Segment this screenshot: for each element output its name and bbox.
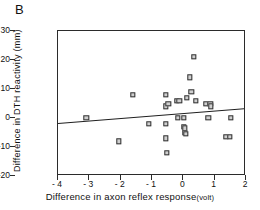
- y-axis-tick: [10, 88, 15, 89]
- x-axis-tick-label: 2: [243, 179, 248, 189]
- x-axis-tick-label: - 3: [83, 179, 93, 189]
- y-axis-tick: [10, 175, 15, 176]
- y-axis-tick-label: 30: [1, 25, 10, 35]
- panel-label: B: [15, 2, 24, 17]
- x-axis-tick-label: 0: [180, 179, 185, 189]
- data-point: [164, 150, 169, 155]
- data-point: [177, 98, 182, 103]
- y-axis-tick: [10, 30, 15, 31]
- data-point: [163, 92, 168, 97]
- scatter-plot-figure: B Difference in DTH reactivity (mm) Diff…: [0, 0, 260, 210]
- x-axis-tick-label: - 4: [52, 179, 62, 189]
- x-axis-tick-label: - 2: [115, 179, 125, 189]
- data-point: [166, 101, 171, 106]
- y-axis-tick-label: 0: [5, 112, 10, 122]
- y-axis-tick-label: 20: [1, 54, 10, 64]
- data-point: [175, 115, 180, 120]
- y-axis-tick-label: -10: [0, 141, 10, 151]
- y-axis-tick-label: -20: [0, 170, 10, 180]
- data-point: [83, 115, 88, 120]
- x-axis-title: Difference in axon reflex response(volt): [0, 191, 260, 202]
- y-axis-tick: [10, 59, 15, 60]
- data-point: [181, 115, 186, 120]
- data-point: [191, 54, 196, 59]
- data-point: [187, 75, 192, 80]
- x-axis-tick-label: 1: [211, 179, 216, 189]
- y-axis-tick-label: 10: [1, 83, 10, 93]
- x-axis-tick-label: - 1: [146, 179, 156, 189]
- plot-frame: [57, 30, 245, 175]
- data-point: [193, 98, 198, 103]
- data-point: [184, 95, 189, 100]
- data-point: [206, 115, 211, 120]
- data-point: [208, 104, 213, 109]
- data-point: [183, 131, 188, 136]
- data-point: [116, 138, 121, 143]
- y-axis-tick: [10, 146, 15, 147]
- data-point: [228, 115, 233, 120]
- data-point: [189, 89, 194, 94]
- y-axis-tick: [10, 117, 15, 118]
- x-axis-unit: (volt): [196, 193, 214, 202]
- y-axis-title: Difference in DTH reactivity (mm): [12, 29, 22, 172]
- plot-area: [58, 31, 244, 174]
- data-point: [227, 134, 232, 139]
- data-point: [163, 121, 168, 126]
- x-axis-title-text: Difference in axon reflex response: [46, 191, 197, 202]
- data-point: [146, 121, 151, 126]
- data-point: [130, 92, 135, 97]
- data-point: [163, 136, 168, 141]
